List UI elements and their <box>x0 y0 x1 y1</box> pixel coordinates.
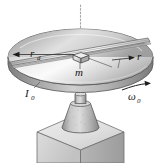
mass-label: m <box>75 66 83 78</box>
moment-of-inertia-label: I 0 <box>24 87 35 102</box>
physics-diagram-figure: r d m r I 0 ω 0 <box>0 0 161 163</box>
mass-radius-symbol: r <box>137 50 142 62</box>
moment-of-inertia-symbol: I <box>24 87 30 99</box>
angular-velocity-subscript: 0 <box>137 97 141 105</box>
conical-pedestal <box>62 92 99 133</box>
mass-symbol: m <box>75 66 83 78</box>
mass-radius-label: r <box>137 50 142 62</box>
angular-velocity-symbol: ω <box>128 90 136 102</box>
disk-radius-subscript: d <box>37 54 41 62</box>
diagram-canvas: r d m r I 0 ω 0 <box>0 0 161 163</box>
angular-velocity-label: ω 0 <box>128 90 141 105</box>
moment-of-inertia-subscript: 0 <box>31 94 35 102</box>
disk-radius-symbol: r <box>30 47 35 59</box>
